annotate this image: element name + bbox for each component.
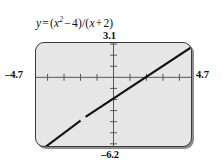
equation-caption: y=(x2−4)/(x+2) (36, 17, 113, 29)
equation-divider: )/( (78, 17, 89, 29)
curve-segment-left (40, 121, 80, 146)
window-ymax-label: 3.1 (103, 30, 116, 41)
equation-x-second: x (89, 17, 94, 29)
viewing-window (35, 42, 192, 147)
equation-equals: = (41, 17, 50, 29)
window-xmin-label: –4.7 (5, 69, 23, 80)
window-ymin-label: –6.2 (101, 149, 119, 160)
plot-canvas (36, 43, 191, 146)
window-xmax-label: 4.7 (196, 69, 209, 80)
curve-segment-right (86, 47, 191, 116)
graph-figure: y=(x2−4)/(x+2) (0, 0, 223, 167)
equation-minus: − (63, 17, 72, 29)
equation-paren-close: ) (109, 17, 113, 29)
